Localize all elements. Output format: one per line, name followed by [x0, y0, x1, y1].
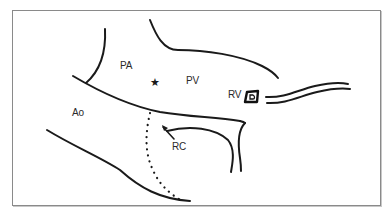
- label-rv: RV: [228, 90, 241, 100]
- label-pv: PV: [186, 76, 199, 86]
- rc-lower-edge: [240, 121, 245, 123]
- rc-vessel-inner: [239, 123, 245, 171]
- ao-lower-wall: [47, 130, 190, 201]
- diagram-drawing: ★: [0, 0, 388, 219]
- label-rc: RC: [172, 142, 186, 152]
- dotted-boundary: [147, 113, 185, 202]
- rv-marker-icon: [245, 91, 258, 102]
- pv-upper-wall: [150, 20, 278, 78]
- star-icon: ★: [150, 76, 160, 89]
- label-pa: PA: [120, 61, 132, 71]
- label-ao: Ao: [72, 108, 84, 118]
- pa-left-wall: [86, 29, 105, 83]
